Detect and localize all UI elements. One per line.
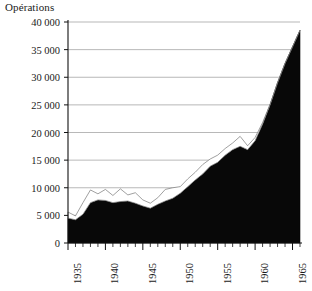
y-tick-label: 35 000: [0, 44, 60, 55]
y-tick-label: 15 000: [0, 155, 60, 166]
y-tick-label: 40 000: [0, 17, 60, 28]
y-tick-label: 25 000: [0, 99, 60, 110]
x-tick-label: 1940: [109, 263, 120, 284]
y-tick-label: 20 000: [0, 127, 60, 138]
y-tick-label: 30 000: [0, 72, 60, 83]
y-axis-ticks: [64, 22, 68, 243]
x-tick-label: 1950: [184, 263, 195, 284]
x-tick-label: 1945: [147, 263, 158, 284]
series-black-area: [68, 30, 300, 243]
x-tick-label: 1960: [259, 263, 270, 284]
chart-figure: Opérations 05 00010 00015 00020 00025 00…: [0, 0, 312, 291]
x-tick-label: 1955: [222, 263, 233, 284]
x-tick-label: 1965: [297, 263, 308, 284]
x-tick-label: 1935: [72, 263, 83, 284]
y-tick-label: 10 000: [0, 182, 60, 193]
y-tick-label: 0: [0, 238, 60, 249]
x-axis-ticks: [68, 243, 300, 250]
y-tick-label: 5 000: [0, 210, 60, 221]
